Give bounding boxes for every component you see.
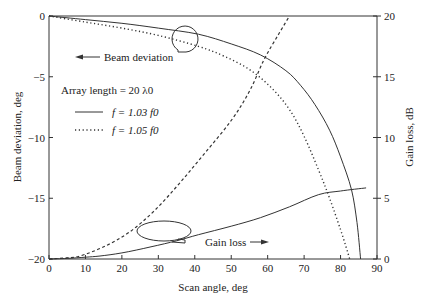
- arrow-left-head: [75, 55, 83, 60]
- series-group: [49, 16, 366, 259]
- x-ticks: 0102030405060708090: [46, 255, 383, 274]
- chart: 0102030405060708090 0−5−10−15−20 2015105…: [0, 0, 425, 303]
- legend-entry-1: f = 1.03 f0: [112, 106, 159, 118]
- y-axis-label-right: Gain loss, dB: [403, 107, 415, 167]
- legend-entry-2: f = 1.05 f0: [112, 124, 159, 136]
- legend-title: Array length = 20 λ0: [61, 84, 154, 96]
- y2-tick-label: 10: [384, 132, 396, 144]
- series-line-3: [49, 188, 366, 259]
- x-tick-label: 30: [153, 262, 165, 274]
- x-tick-label: 0: [46, 262, 52, 274]
- x-tick-label: 40: [189, 262, 201, 274]
- arrow-right-head: [261, 240, 269, 245]
- annotation-gain-loss: Gain loss: [137, 221, 269, 248]
- y2-tick-label: 15: [384, 71, 396, 83]
- series-line-1: [49, 16, 361, 259]
- x-tick-label: 60: [262, 262, 274, 274]
- y-tick-label: −5: [33, 71, 45, 83]
- y2-tick-label: 20: [384, 10, 396, 22]
- callout-ellipse-gain: [137, 221, 191, 241]
- x-tick-label: 50: [226, 262, 238, 274]
- y-tick-label: −10: [28, 132, 46, 144]
- x-tick-label: 80: [335, 262, 347, 274]
- y2-tick-label: 0: [384, 253, 390, 265]
- callout-circle-beam: [172, 26, 198, 52]
- x-tick-label: 10: [80, 262, 92, 274]
- annotation-text-beam: Beam deviation: [104, 51, 174, 63]
- x-tick-label: 20: [116, 262, 128, 274]
- x-tick-label: 70: [299, 262, 311, 274]
- y-tick-label: −15: [28, 192, 46, 204]
- legend: Array length = 20 λ0 f = 1.03 f0 f = 1.0…: [61, 84, 159, 136]
- y2-tick-label: 5: [384, 192, 390, 204]
- series-line-2: [49, 16, 350, 259]
- y-tick-label: −20: [28, 253, 46, 265]
- y-axis-label-left: Beam deviation, deg: [11, 91, 23, 182]
- annotation-text-gain: Gain loss: [205, 236, 246, 248]
- y-tick-label: 0: [40, 10, 46, 22]
- x-axis-label: Scan angle, deg: [178, 281, 248, 293]
- annotation-beam-deviation: Beam deviation: [75, 26, 198, 63]
- y-ticks-right: 20151050: [373, 10, 396, 265]
- x-tick-label: 90: [372, 262, 384, 274]
